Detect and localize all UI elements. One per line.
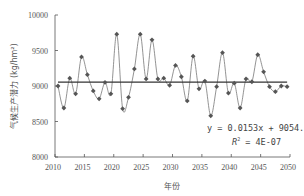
data-point-marker bbox=[120, 106, 125, 111]
data-point-marker bbox=[214, 84, 219, 89]
data-point-marker bbox=[226, 91, 231, 96]
x-tick-label: 2025 bbox=[133, 163, 149, 172]
trend-equation: y = 0.0153x + 9054.3 bbox=[207, 123, 304, 133]
data-point-marker bbox=[144, 77, 149, 82]
y-axis: 800085009000950010000 bbox=[28, 11, 58, 162]
r-squared-label: R2 = 4E-07 bbox=[232, 136, 281, 147]
y-axis-title: 气候生产潜力 (kg/hm²) bbox=[9, 43, 19, 128]
y-tick-label: 9500 bbox=[32, 47, 48, 56]
x-tick-label: 2010 bbox=[45, 163, 61, 172]
x-tick-label: 2040 bbox=[221, 163, 237, 172]
data-point-marker bbox=[173, 63, 178, 68]
x-tick-label: 2030 bbox=[163, 163, 179, 172]
y-tick-label: 10000 bbox=[28, 11, 48, 20]
x-tick-label: 2015 bbox=[74, 163, 90, 172]
data-point-marker bbox=[208, 113, 213, 118]
data-point-marker bbox=[150, 37, 155, 42]
data-point-marker bbox=[273, 89, 278, 94]
data-point-marker bbox=[238, 106, 243, 111]
x-axis: 201020152020202520302035204020452050 bbox=[45, 154, 296, 172]
data-point-marker bbox=[285, 84, 290, 89]
x-tick-label: 2020 bbox=[104, 163, 120, 172]
x-tick-label: 2050 bbox=[280, 163, 296, 172]
data-point-marker bbox=[179, 74, 184, 79]
data-point-marker bbox=[249, 79, 254, 84]
data-point-marker bbox=[267, 84, 272, 89]
data-point-marker bbox=[97, 96, 102, 101]
data-point-marker bbox=[197, 86, 202, 91]
x-axis-title: 年份 bbox=[164, 181, 180, 191]
data-point-marker bbox=[138, 32, 143, 37]
y-tick-label: 8000 bbox=[32, 153, 48, 162]
data-point-marker bbox=[91, 89, 96, 94]
data-point-marker bbox=[56, 84, 61, 89]
r-squared-value: = 4E-07 bbox=[240, 137, 281, 147]
line-chart: 800085009000950010000 201020152020202520… bbox=[0, 0, 304, 196]
data-point-marker bbox=[85, 72, 90, 77]
x-tick-label: 2045 bbox=[251, 163, 267, 172]
x-tick-label: 2035 bbox=[192, 163, 208, 172]
data-point-marker bbox=[167, 83, 172, 88]
y-tick-label: 9000 bbox=[32, 82, 48, 91]
data-point-marker bbox=[132, 67, 137, 72]
data-point-marker bbox=[114, 32, 119, 37]
data-point-marker bbox=[191, 54, 196, 59]
series-line bbox=[58, 34, 287, 116]
data-point-marker bbox=[126, 95, 131, 100]
data-point-marker bbox=[220, 50, 225, 55]
data-point-marker bbox=[103, 80, 108, 85]
data-point-marker bbox=[244, 77, 249, 82]
data-point-marker bbox=[155, 77, 160, 82]
data-point-marker bbox=[261, 69, 266, 74]
y-tick-label: 8500 bbox=[32, 118, 48, 127]
